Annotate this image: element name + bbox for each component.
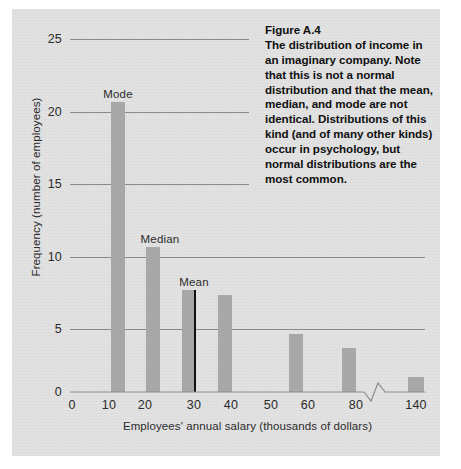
x-tick-60: 60: [301, 398, 315, 412]
x-tick-10: 10: [102, 398, 116, 412]
x-tick-20: 20: [138, 398, 152, 412]
x-tick-80: 80: [349, 398, 363, 412]
figure-caption-title: Figure A.4: [265, 23, 433, 38]
y-tick-5: 5: [55, 322, 62, 336]
annotation-median: Median: [141, 233, 180, 245]
y-tick-20: 20: [48, 105, 62, 119]
bar-60: [289, 334, 303, 392]
gridline-15: [70, 184, 249, 185]
x-tick-50: 50: [264, 398, 278, 412]
bar-80: [342, 348, 356, 392]
x-tick-140: 140: [405, 398, 426, 412]
annotation-mode: Mode: [103, 88, 133, 100]
figure-caption: Figure A.4 The distribution of income in…: [265, 23, 433, 187]
mean-marker-line: [194, 290, 196, 392]
y-axis-label: Frequency (number of employees): [30, 77, 42, 297]
y-tick-15: 15: [48, 177, 62, 191]
y-tick-0: 0: [55, 385, 62, 399]
x-tick-40: 40: [224, 398, 238, 412]
x-tick-30: 30: [187, 398, 201, 412]
bar-40: [218, 295, 232, 392]
y-tick-25: 25: [48, 32, 62, 46]
gridline-20: [70, 112, 249, 113]
bar-20: [146, 247, 160, 392]
annotation-mean: Mean: [179, 276, 209, 288]
x-axis-label: Employees' annual salary (thousands of d…: [70, 420, 425, 432]
figure-caption-body: The distribution of income in an imagina…: [265, 38, 433, 185]
gridline-25: [70, 39, 249, 40]
y-tick-10: 10: [48, 250, 62, 264]
bar-10: [111, 102, 125, 392]
figure-panel: 25 20 15 10 5 0 Frequency (number of emp…: [12, 9, 440, 456]
bar-140: [408, 377, 424, 392]
x-tick-0: 0: [68, 398, 75, 412]
